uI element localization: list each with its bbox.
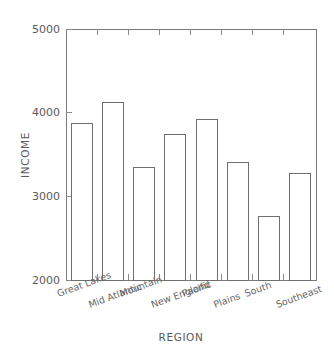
ytick-label-3000: 3000 (32, 190, 60, 203)
bar-south (259, 216, 280, 280)
x-axis-ticks (97, 274, 283, 280)
x-label-southeast: Southeast (274, 283, 323, 310)
bar-southeast (290, 173, 311, 280)
x-label-south: South (243, 279, 273, 299)
ytick-label-5000: 5000 (32, 23, 60, 36)
y-axis-title: INCOME (19, 132, 31, 178)
ytick-label-4000: 4000 (32, 106, 60, 119)
ytick-label-2000: 2000 (32, 274, 60, 287)
y-axis-tick-labels: 2000 3000 4000 5000 (32, 23, 60, 287)
bar-mid-atlantic (102, 103, 123, 280)
bar-pacific (196, 120, 217, 280)
x-label-plains: Plains (212, 290, 242, 310)
bar-great-lakes (71, 124, 92, 281)
bar-mountain (134, 168, 155, 281)
top-axis-ticks (97, 29, 283, 35)
chart-canvas: 2000 3000 4000 5000 Great (0, 0, 334, 358)
bar-chart: 2000 3000 4000 5000 Great (0, 0, 334, 358)
x-axis-title: REGION (159, 331, 204, 343)
bar-new-england (165, 135, 186, 280)
bar-plains (227, 162, 248, 280)
bars-group (71, 103, 311, 280)
